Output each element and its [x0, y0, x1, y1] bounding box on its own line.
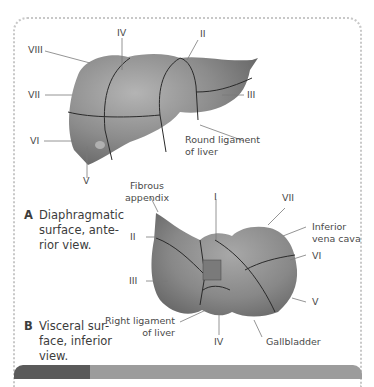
label-segment-v-b: V	[312, 296, 319, 308]
label-segment-vi: VI	[30, 135, 39, 147]
label-segment-ii: II	[200, 28, 206, 40]
label-segment-i: I	[214, 191, 217, 203]
caption-panel-a: A Diaphragmatic surface, ante- rior view…	[24, 208, 124, 253]
label-segment-ii-b: II	[130, 231, 136, 243]
footer-bar	[14, 365, 362, 379]
label-fibrous-appendix: Fibrous appendix	[125, 180, 169, 204]
label-segment-vi-b: VI	[312, 250, 321, 262]
label-segment-iii: III	[247, 89, 255, 101]
label-gallbladder: Gallbladder	[266, 336, 321, 348]
footer-bar-light-segment	[90, 365, 362, 379]
caption-panel-b: B Visceral sur- face, inferior view.	[24, 319, 124, 364]
label-inferior-vena-cava: Inferior vena cava	[312, 221, 361, 245]
label-segment-v: V	[83, 175, 90, 187]
label-segment-vii-b: VII	[282, 192, 294, 204]
caption-letter-b: B	[24, 319, 33, 334]
label-segment-iii-b: III	[129, 275, 137, 287]
footer-bar-dark-segment	[14, 365, 90, 379]
caption-letter-a: A	[24, 208, 33, 223]
label-segment-iv-b: IV	[214, 336, 223, 348]
label-segment-vii: VII	[28, 89, 40, 101]
label-segment-viii: VIII	[28, 44, 43, 56]
label-segment-iv: IV	[117, 27, 126, 39]
label-round-ligament: Round ligament of liver	[185, 134, 260, 158]
